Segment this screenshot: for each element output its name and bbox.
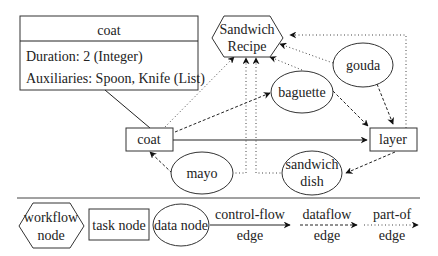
legend-dataflow-edge: dataflow edge: [300, 207, 357, 243]
legend-task-node: task node: [89, 209, 149, 240]
svg-text:dish: dish: [300, 174, 323, 189]
svg-text:edge: edge: [379, 228, 405, 243]
svg-text:Recipe: Recipe: [228, 39, 267, 54]
svg-text:Sandwich: Sandwich: [219, 22, 274, 37]
edge-partof-gouda-recipe: [280, 44, 333, 63]
attribute-box-coat: coat Duration: 2 (Integer) Auxiliaries: …: [20, 16, 205, 90]
legend-control-flow-edge: control-flow edge: [210, 207, 290, 243]
svg-text:node: node: [37, 228, 64, 243]
attribute-connector: [105, 90, 150, 128]
svg-text:part-of: part-of: [373, 207, 411, 222]
workflow-diagram: coat Duration: 2 (Integer) Auxiliaries: …: [0, 0, 438, 256]
data-node-gouda[interactable]: gouda: [333, 43, 393, 87]
svg-text:baguette: baguette: [278, 85, 325, 100]
edge-dataflow-layer-dish: [346, 152, 395, 173]
edge-dataflow-baguette-layer: [333, 91, 368, 126]
data-node-mayo[interactable]: mayo: [171, 152, 233, 194]
attribute-row-duration: Duration: 2 (Integer): [26, 49, 143, 65]
edge-dataflow-mayo-coat: [150, 152, 172, 173]
legend-part-of-edge: part-of edge: [364, 207, 418, 243]
svg-text:task node: task node: [92, 218, 145, 233]
legend-data-node: data node: [153, 204, 209, 246]
data-node-baguette[interactable]: baguette: [271, 71, 333, 113]
svg-text:control-flow: control-flow: [215, 207, 286, 222]
svg-text:gouda: gouda: [346, 58, 381, 73]
edge-partof-baguette-recipe: [270, 57, 302, 70]
attribute-box-title: coat: [97, 23, 120, 38]
legend-workflow-node: workflow node: [19, 203, 84, 248]
workflow-node-sandwich-recipe[interactable]: Sandwich Recipe: [212, 16, 283, 57]
svg-text:layer: layer: [379, 132, 407, 147]
task-node-coat[interactable]: coat: [126, 128, 173, 151]
edge-partof-dish-recipe: [256, 58, 284, 173]
svg-text:workflow: workflow: [24, 210, 79, 225]
svg-text:sandwich: sandwich: [286, 157, 339, 172]
svg-text:dataflow: dataflow: [303, 207, 353, 222]
attribute-row-auxiliaries: Auxiliaries: Spoon, Knife (List): [26, 71, 205, 87]
edge-dataflow-gouda-layer: [377, 84, 393, 124]
svg-text:mayo: mayo: [186, 166, 217, 181]
data-node-sandwich-dish[interactable]: sandwich dish: [282, 151, 342, 195]
svg-text:coat: coat: [137, 132, 160, 147]
task-node-layer[interactable]: layer: [370, 128, 417, 151]
svg-text:edge: edge: [237, 228, 263, 243]
legend: workflow node task node data node contro…: [19, 203, 418, 248]
svg-text:data node: data node: [154, 218, 208, 233]
svg-text:edge: edge: [314, 228, 340, 243]
